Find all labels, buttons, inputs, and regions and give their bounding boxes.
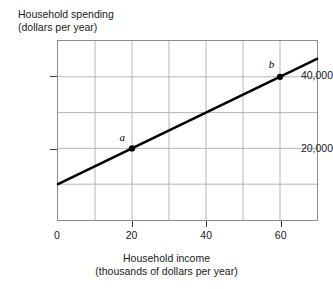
x-axis-title-line1: Household income [123,252,210,264]
x-axis-title-line2: (thousands of dollars per year) [0,265,333,278]
x-tick-mark [206,221,207,227]
x-tick-mark [132,221,133,227]
x-axis-title: Household income (thousands of dollars p… [0,252,333,278]
plot-area [57,40,318,221]
y-axis-title: Household spending (dollars per year) [18,8,114,34]
y-tick-label: 40,000 [281,70,333,81]
data-point-marker-a [129,145,135,151]
y-tick-label: 20,000 [281,143,333,154]
x-tick-label: 60 [261,230,301,241]
chart-figure: Household spending (dollars per year) 20… [0,0,333,289]
x-tick-label: 40 [186,230,226,241]
x-tick-mark [281,221,282,227]
y-tick-mark [50,76,57,77]
point-label-b: b [269,58,275,70]
y-tick-mark [50,149,57,150]
y-axis-title-line1: Household spending [18,8,114,20]
data-series-layer [58,41,317,220]
y-axis-title-line2: (dollars per year) [18,21,114,34]
x-tick-label: 0 [37,230,77,241]
point-label-a: a [120,131,126,143]
x-tick-label: 20 [112,230,152,241]
